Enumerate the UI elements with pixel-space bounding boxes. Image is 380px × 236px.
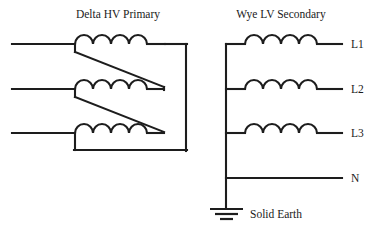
terminal-label-l1: L1	[351, 38, 364, 50]
terminal-label-l3: L3	[351, 127, 364, 139]
secondary-coil-l1	[245, 35, 317, 44]
primary-coil-1	[75, 35, 147, 44]
transformer-diagram: Delta HV Primary Wye LV Secondary	[0, 0, 380, 236]
terminal-label-l2: L2	[351, 83, 364, 95]
secondary-title: Wye LV Secondary	[236, 8, 326, 21]
terminal-label-n: N	[351, 172, 360, 184]
primary-coil-2	[75, 80, 147, 89]
secondary-wye-group	[226, 35, 342, 208]
primary-delta-diagonal-2	[75, 97, 164, 132]
ground-symbol	[210, 209, 243, 219]
secondary-coil-l3	[245, 124, 317, 133]
earth-label: Solid Earth	[250, 208, 302, 220]
primary-delta-group	[12, 35, 187, 151]
primary-title: Delta HV Primary	[76, 8, 160, 21]
secondary-coil-l2	[245, 80, 317, 89]
primary-coil-3	[75, 124, 147, 133]
schematic-canvas: Delta HV Primary Wye LV Secondary	[0, 0, 380, 236]
